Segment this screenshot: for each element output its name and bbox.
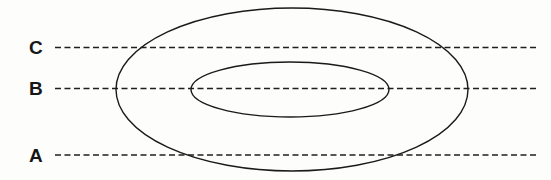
level-label-a: A xyxy=(29,146,43,165)
inner-contour-ellipse xyxy=(191,62,389,117)
level-label-c: C xyxy=(29,38,43,57)
figure-canvas: C B A xyxy=(0,0,551,180)
diagram-svg xyxy=(0,0,551,180)
outer-contour-ellipse xyxy=(116,8,468,171)
level-label-b: B xyxy=(29,79,43,98)
